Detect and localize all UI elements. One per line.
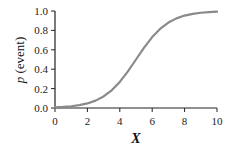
x-tick-label: 0 — [52, 115, 58, 127]
x-tick-label: 6 — [149, 115, 155, 127]
y-tick-label: 0.2 — [34, 83, 48, 95]
y-axis-title: p (event) — [12, 37, 27, 85]
y-tick-label: 0.6 — [34, 44, 48, 56]
chart-canvas: 0.00.20.40.60.81.0 0246810 p (event) X — [0, 0, 232, 155]
y-tick-label: 0.4 — [34, 63, 48, 75]
x-tick-label: 4 — [117, 115, 123, 127]
logistic-curve — [55, 12, 217, 108]
y-tick-label: 0.8 — [34, 24, 48, 36]
x-axis-title: X — [130, 131, 141, 146]
y-axis-ticks: 0.00.20.40.60.81.0 — [34, 5, 55, 114]
x-tick-label: 8 — [182, 115, 188, 127]
y-tick-label: 0.0 — [34, 102, 48, 114]
x-tick-label: 10 — [212, 115, 224, 127]
x-tick-label: 2 — [85, 115, 91, 127]
x-axis-ticks: 0246810 — [52, 108, 223, 127]
y-tick-label: 1.0 — [34, 5, 48, 17]
y-axis-title-rest: (event) — [12, 37, 27, 77]
logistic-chart: 0.00.20.40.60.81.0 0246810 p (event) X — [0, 0, 232, 155]
